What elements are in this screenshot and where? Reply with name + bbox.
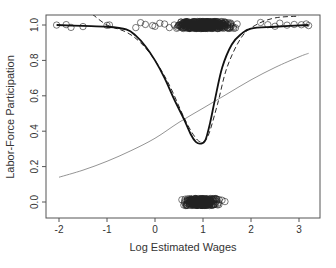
x-tick-label: 2: [248, 224, 254, 235]
y-axis-title: Labor-Force Participation: [4, 55, 16, 179]
x-tick-label: 0: [152, 224, 158, 235]
data-point: [166, 24, 172, 30]
chart-container: -2-10123 0.00.20.40.60.81.0 Log Estimate…: [0, 0, 336, 268]
y-tick-label: 0.8: [29, 53, 40, 67]
x-axis-title: Log Estimated Wages: [129, 241, 237, 253]
y-tick-label: 0.0: [29, 195, 40, 209]
y-tick-label: 1.0: [29, 18, 40, 32]
data-point: [161, 21, 167, 27]
y-tick-label: 0.4: [29, 124, 40, 138]
fitted-curves: [57, 14, 309, 177]
data-point: [277, 20, 283, 26]
data-point: [133, 24, 139, 30]
data-point: [152, 23, 158, 29]
y-tick-label: 0.2: [29, 159, 40, 173]
x-tick-label: 3: [296, 224, 302, 235]
x-tick-label: -2: [55, 224, 64, 235]
dashed-fit-curve: [93, 14, 299, 142]
logit-fit-curve: [59, 53, 309, 177]
data-point: [303, 21, 309, 27]
x-tick-label: -1: [103, 224, 112, 235]
x-tick-label: 1: [200, 224, 206, 235]
y-axis: 0.00.20.40.60.81.0: [29, 18, 46, 209]
scatter-plot: -2-10123 0.00.20.40.60.81.0 Log Estimate…: [0, 0, 336, 268]
nonparametric-fit-curve: [57, 25, 309, 144]
x-axis: -2-10123: [55, 218, 303, 235]
y-tick-label: 0.6: [29, 88, 40, 102]
